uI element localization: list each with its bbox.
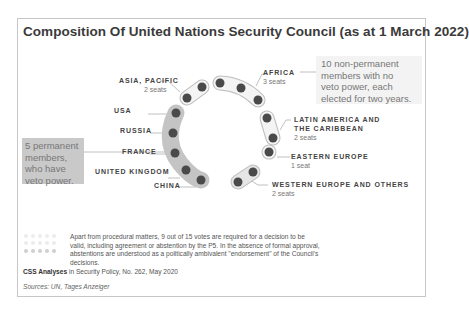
label-china: CHINA bbox=[154, 182, 181, 189]
seat-africa-2 bbox=[237, 84, 246, 93]
label-western-europe: WESTERN EUROPE AND OTHERS bbox=[272, 181, 409, 188]
seat-asia-1 bbox=[183, 94, 192, 103]
seat-china bbox=[197, 176, 206, 185]
vote-dot-grid bbox=[24, 234, 56, 253]
callout-line: members, bbox=[25, 152, 81, 164]
seats-latin-america: 2 seats bbox=[294, 134, 317, 141]
label-russia: RUSSIA bbox=[120, 127, 152, 134]
citation-publication: CSS Analyses bbox=[23, 268, 67, 275]
seats-africa: 3 seats bbox=[263, 78, 286, 85]
sources: Sources: UN, Tages Anzeiger bbox=[23, 283, 109, 290]
label-france: FRANCE bbox=[122, 148, 157, 155]
label-latin-america-line1: LATIN AMERICA AND bbox=[294, 116, 380, 123]
nonpermanent-members-callout: 10 non-permanent members with no veto po… bbox=[316, 56, 422, 104]
callout-line: 10 non-permanent bbox=[321, 58, 417, 70]
label-united-kingdom: UNITED KINGDOM bbox=[95, 168, 169, 175]
label-eastern-europe: EASTERN EUROPE bbox=[291, 153, 369, 160]
seats-asia-pacific: 2 seats bbox=[144, 86, 167, 93]
seats-eastern-europe: 1 seat bbox=[291, 162, 310, 169]
seat-easteu-1 bbox=[265, 148, 274, 157]
permanent-members-callout: 5 permanent members, who have veto power… bbox=[22, 138, 84, 184]
seat-asia-2 bbox=[198, 83, 207, 92]
seat-latam-1 bbox=[263, 114, 272, 123]
seat-france bbox=[171, 149, 180, 158]
voting-footnote: Apart from procedural matters, 9 out of … bbox=[70, 233, 320, 267]
seat-latam-2 bbox=[269, 134, 278, 143]
label-latin-america-line2: THE CARIBBEAN bbox=[294, 125, 364, 132]
label-asia-pacific: ASIA, PACIFIC bbox=[119, 77, 179, 84]
seat-westeu-2 bbox=[234, 178, 243, 187]
seat-uk bbox=[182, 166, 191, 175]
label-usa: USA bbox=[114, 107, 131, 114]
label-africa: AFRICA bbox=[263, 69, 295, 76]
seat-russia bbox=[169, 129, 178, 138]
callout-line: 5 permanent bbox=[25, 140, 81, 152]
callout-line: veto power, each bbox=[321, 81, 417, 93]
seat-africa-3 bbox=[254, 96, 263, 105]
seat-westeu-1 bbox=[249, 168, 258, 177]
seat-usa bbox=[172, 109, 181, 118]
callout-line: members with no bbox=[321, 70, 417, 82]
callout-line: who have bbox=[25, 163, 81, 175]
callout-line: veto power. bbox=[25, 175, 81, 187]
callout-line: elected for two years. bbox=[321, 93, 417, 105]
seat-africa-1 bbox=[216, 79, 225, 88]
citation-details: in Security Policy, No. 262, May 2020 bbox=[67, 268, 178, 275]
seats-western-europe: 2 seats bbox=[272, 190, 295, 197]
citation: CSS Analyses in Security Policy, No. 262… bbox=[23, 268, 178, 275]
